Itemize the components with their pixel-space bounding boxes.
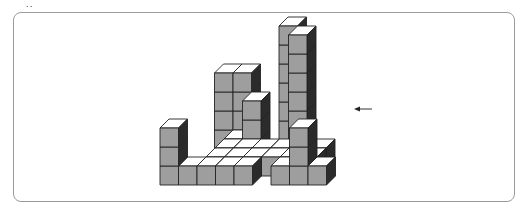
cube-front-face [289, 54, 308, 73]
cube-front-face [290, 147, 309, 166]
cube-front-face [290, 128, 309, 147]
cube-front-face [215, 92, 234, 111]
cube-front-face [197, 166, 216, 185]
cube-front-face [243, 101, 262, 120]
cube-front-face [290, 166, 309, 185]
arrow-head-icon [354, 107, 360, 112]
cube-front-face [308, 166, 327, 185]
cube-front-face [160, 147, 179, 166]
cube-front-face [234, 166, 253, 185]
cube-front-face [289, 35, 308, 54]
cube-front-face [160, 166, 179, 185]
cube-front-face [289, 73, 308, 92]
cube-structure-diagram [0, 0, 528, 216]
cube-front-face [160, 128, 179, 147]
cube-front-face [243, 120, 262, 139]
cube-front-face [289, 92, 308, 111]
cube-front-face [233, 73, 252, 92]
cube-front-face [215, 73, 234, 92]
cube-front-face [179, 166, 198, 185]
cube-front-face [216, 166, 235, 185]
cube-front-face [215, 111, 234, 130]
cube-front-face [271, 166, 290, 185]
